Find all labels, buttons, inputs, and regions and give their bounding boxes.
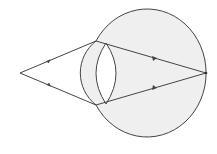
focus-point [205,72,208,75]
eye-diagram [0,0,217,154]
